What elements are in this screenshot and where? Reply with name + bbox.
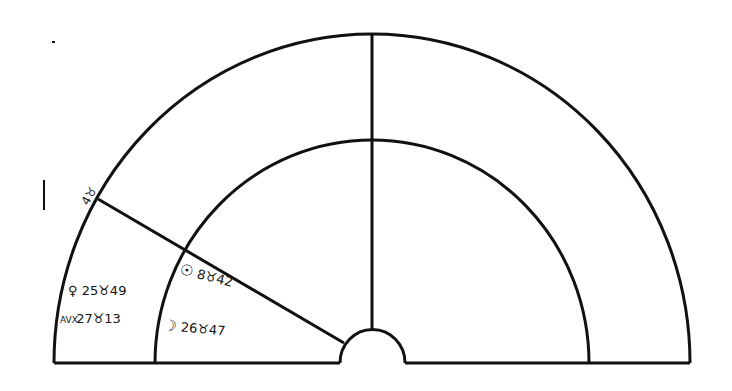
ascendant-position: 27♉13 (76, 311, 121, 326)
moon-icon: ☽ (163, 316, 178, 335)
ascendant-icon: AVX (60, 316, 68, 324)
center-semicircle (340, 329, 405, 363)
ascendant-placement: AVX 27♉13 (60, 312, 121, 325)
sun-icon: ☉ (178, 260, 195, 281)
chart-diagram (0, 0, 732, 391)
venus-icon: ♀ (68, 283, 78, 298)
venus-placement: ♀ 25♉49 (68, 284, 126, 297)
venus-position: 25♉49 (82, 283, 127, 298)
